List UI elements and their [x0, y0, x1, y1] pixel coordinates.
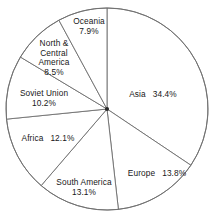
pie-chart-canvas — [0, 0, 216, 217]
pie-chart: Asia34.4%Europe13.8%South America13.1%Af… — [0, 0, 216, 217]
pie-center-dot — [105, 107, 109, 111]
